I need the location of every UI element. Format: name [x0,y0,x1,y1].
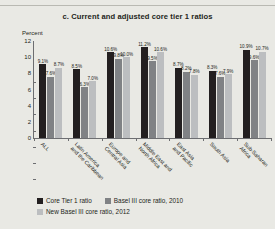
bar-group: 8.7%8.2%7.8% [169,41,203,138]
x-axis-tick-mark [271,138,272,141]
legend-label: Core Tier 1 ratio [46,197,92,204]
bar-value-label: 7.0% [88,76,98,81]
x-axis-tick-mark [203,138,204,141]
bar[interactable]: 10.9% [243,50,250,138]
bar-value-label: 10.0% [120,52,133,57]
legend-swatch-icon [105,198,111,204]
x-axis-tick-mark [102,138,103,141]
bar[interactable]: 7.8% [191,75,198,138]
bar[interactable]: 8.7% [175,68,182,138]
chart-figure: c. Current and adjusted core tier 1 rati… [0,0,275,229]
x-axis-category-labels: ALLLatin Americaand the CaribbeanEurope … [34,141,271,191]
bar-group: 10.6%9.8%10.0% [102,41,136,138]
bar-group: 10.9%9.6%10.7% [237,41,271,138]
legend-item-basel-2012[interactable]: New Basel III core ratio, 2012 [37,208,130,215]
bar-value-label: 11.2% [138,42,151,47]
bar-value-label: 7.8% [189,69,199,74]
legend-label: New Basel III core ratio, 2012 [46,208,130,215]
x-axis-tick-mark [169,138,170,141]
bar-group: 9.1%7.6%8.7% [34,41,68,138]
x-axis-category-label: Middle East andNorth Africa [137,141,173,177]
bar[interactable]: 10.7% [259,52,266,138]
bar[interactable]: 9.6% [251,60,258,138]
chart-legend: Core Tier 1 ratio Basel III core ratio, … [37,196,267,218]
legend-swatch-icon [37,198,43,204]
bar[interactable]: 8.3% [209,71,216,138]
x-axis-tick-mark [34,138,35,141]
legend-row-secondary: New Basel III core ratio, 2012 [37,207,267,216]
top-divider [0,5,275,6]
bar-groups: 9.1%7.6%8.7%8.5%6.3%7.0%10.6%9.8%10.0%11… [34,41,271,138]
bar-value-label: 9.1% [38,59,48,64]
bar[interactable]: 7.6% [47,77,54,138]
x-axis-tick-mark [237,138,238,141]
x-label-line: ALL [40,141,51,152]
bar[interactable]: 8.5% [73,69,80,138]
bar-value-label: 10.9% [240,44,253,49]
legend-swatch-icon [37,209,43,215]
x-axis-category-label: East Asiaand Pacific [171,141,198,168]
legend-item-core-tier-1[interactable]: Core Tier 1 ratio [37,197,92,204]
bar-value-label: 7.9% [223,69,233,74]
x-label-line: South Asia [209,141,231,163]
bar[interactable]: 10.6% [107,52,114,138]
bar-value-label: 8.3% [207,65,217,70]
bar[interactable]: 11.2% [141,47,148,138]
bar-group: 11.2%9.5%10.6% [136,41,170,138]
bar[interactable]: 8.7% [55,68,62,138]
chart-title: c. Current and adjusted core tier 1 rati… [0,12,275,21]
y-axis-unit-label: Percent [22,30,43,36]
x-axis-category-label: ALL [40,141,51,152]
x-axis-category-label: Sub-SaharanAfrica [239,141,270,172]
bar-value-label: 8.5% [72,64,82,69]
bar[interactable]: 10.0% [123,57,130,138]
bar-value-label: 10.6% [154,47,167,52]
x-axis-tick-mark [68,138,69,141]
bar[interactable]: 7.6% [217,77,224,138]
x-axis-tick-mark [136,138,137,141]
bar[interactable]: 7.9% [225,74,232,138]
legend-label: Basel III core ratio, 2010 [114,197,183,204]
bar-group: 8.5%6.3%7.0% [68,41,102,138]
bar[interactable]: 8.2% [183,72,190,138]
x-axis-category-label: Europe andCentral Asia [103,141,132,170]
bar-value-label: 8.7% [54,62,64,67]
bar[interactable]: 9.8% [115,59,122,138]
legend-item-basel-2010[interactable]: Basel III core ratio, 2010 [105,197,183,204]
x-axis-category-label: Latin Americaand the Caribbean [70,141,110,181]
legend-row-primary: Core Tier 1 ratio Basel III core ratio, … [37,196,267,205]
bar-group: 8.3%7.6%7.9% [203,41,237,138]
bar-value-label: 10.7% [256,46,269,51]
bar[interactable]: 9.5% [149,61,156,138]
x-axis-category-label: South Asia [209,141,231,163]
bar[interactable]: 6.3% [81,87,88,138]
bar[interactable]: 7.0% [89,81,96,138]
bar-value-label: 10.6% [104,47,117,52]
bar[interactable]: 10.6% [157,52,164,138]
